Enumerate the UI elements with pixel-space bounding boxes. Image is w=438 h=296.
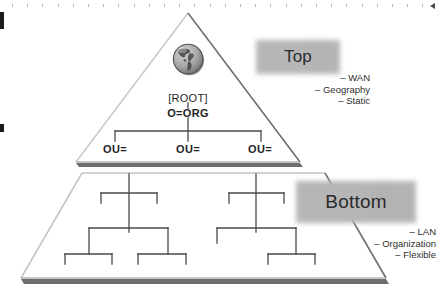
globe-americas-icon [171,42,206,77]
bullet-item: – Flexible [318,249,436,261]
cloud-label-bottom: Bottom [325,191,386,213]
bullet-list-bottom: – LAN – Organization – Flexible [318,226,436,261]
bullet-item: – Static [250,95,370,107]
bullet-item: – Organization [318,238,436,250]
top-triangle-shadow [76,163,303,167]
figure-canvas: Top Bottom – WAN – Geography – Static – … [0,0,438,296]
bullet-item: – WAN [250,72,370,84]
bottom-trapezoid-shadow [21,279,389,284]
tree-node-organization: O=ORG [148,107,228,119]
bullet-list-top: – WAN – Geography – Static [250,72,370,107]
tree-node-ou: OU= [237,143,283,155]
tree-node-root: [ROOT] [148,92,228,104]
cloud-badge-top: Top [256,40,340,74]
bullet-item: – LAN [318,226,436,238]
cloud-label-top: Top [284,47,312,67]
tree-node-ou: OU= [165,143,211,155]
cloud-badge-bottom: Bottom [296,181,416,223]
bullet-item: – Geography [250,84,370,96]
tree-node-ou: OU= [92,143,138,155]
